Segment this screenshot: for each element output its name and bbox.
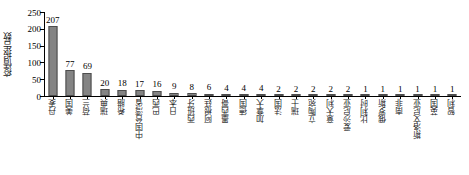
- bar-value-label: 4: [242, 84, 247, 93]
- x-axis-category-label: 爱沙尼亚: [344, 99, 352, 131]
- bar-value-label: 18: [118, 79, 127, 88]
- bar-slot: 1: [426, 12, 443, 96]
- bar[interactable]: [83, 73, 92, 96]
- x-axis-category-label: 瑞典: [101, 99, 109, 115]
- x-axis-category-label: 南非: [396, 99, 404, 115]
- bar-value-label: 2: [294, 85, 299, 94]
- bar-slot: 9: [166, 12, 183, 96]
- y-axis-tick-label: 50: [32, 75, 41, 85]
- bar-slot: 1: [444, 12, 461, 96]
- bar-slot: 17: [131, 12, 148, 96]
- bar-slot: 2: [270, 12, 287, 96]
- bar-value-label: 207: [46, 16, 60, 25]
- bar-value-label: 1: [398, 85, 403, 94]
- bar[interactable]: [66, 70, 75, 96]
- bar-slot: 77: [61, 12, 78, 96]
- y-axis-title: 疫情报告数: [0, 0, 14, 108]
- y-axis-tick-label: 250: [28, 8, 42, 18]
- x-axis-category-label: 德国: [240, 99, 248, 115]
- y-axis-tick-label: 200: [28, 24, 42, 34]
- bar-slot: 1: [392, 12, 409, 96]
- bar-value-label: 17: [135, 80, 144, 89]
- bar-value-label: 1: [363, 85, 368, 94]
- bar-slot: 2: [339, 12, 356, 96]
- x-axis-category-label: 法国: [275, 99, 283, 115]
- bar-value-label: 2: [276, 85, 281, 94]
- x-axis-line: [44, 96, 461, 97]
- x-axis-category-label: 荷兰: [83, 99, 91, 115]
- bar-value-label: 6: [207, 83, 212, 92]
- bar-slot: 1: [374, 12, 391, 96]
- x-axis-category-label: 比利时: [361, 99, 369, 123]
- bar-value-label: 1: [433, 85, 438, 94]
- x-axis-category-label: 瑞士: [292, 99, 300, 115]
- bar-value-label: 4: [259, 84, 264, 93]
- bar-slot: 2: [287, 12, 304, 96]
- bar[interactable]: [100, 89, 109, 96]
- bar-value-label: 20: [100, 79, 109, 88]
- x-axis-category-label: 希腊: [118, 99, 126, 115]
- bar-slot: 207: [44, 12, 61, 96]
- bar-slot: 18: [114, 12, 131, 96]
- x-axis-category-label: 巴西: [153, 99, 161, 115]
- bar-slot: 6: [200, 12, 217, 96]
- x-axis-category-label: 意大利: [327, 99, 335, 123]
- x-axis-category-label: 阿根廷: [205, 99, 213, 123]
- bar-value-label: 8: [189, 83, 194, 92]
- bar-slot: 1: [409, 12, 426, 96]
- x-axis-category-label: 西班牙: [188, 99, 196, 123]
- x-axis-category-label: 丹麦: [49, 99, 57, 115]
- x-axis-category-label: 智利: [448, 99, 456, 115]
- bar-value-label: 1: [381, 85, 386, 94]
- x-axis-category-label: 墨西哥: [222, 99, 230, 123]
- bar-value-label: 4: [224, 84, 229, 93]
- bar-slot: 8: [183, 12, 200, 96]
- bar-value-label: 2: [328, 85, 333, 94]
- bar-slot: 4: [235, 12, 252, 96]
- x-axis-category-label: 美国: [66, 99, 74, 115]
- bar-slot: 16: [148, 12, 165, 96]
- x-axis-category-label: 立陶宛: [309, 99, 317, 123]
- bar-value-label: 16: [152, 80, 161, 89]
- bar-chart-figure: 疫情报告数 050100150200250 207776920181716986…: [0, 0, 469, 175]
- y-axis-tick-label: 150: [28, 41, 42, 51]
- x-axis-category-labels: 丹麦美国荷兰瑞典希腊中国台湾省巴西日本西班牙阿根廷墨西哥德国加拿大法国瑞士立陶宛…: [44, 99, 461, 175]
- y-axis-tick-label: 0: [37, 92, 42, 102]
- bar-value-label: 1: [415, 85, 420, 94]
- bar[interactable]: [48, 26, 57, 96]
- bars-layer: 20777692018171698644422222111111: [44, 12, 461, 96]
- bar-slot: 69: [79, 12, 96, 96]
- x-axis-category-label: 中国台湾省: [136, 99, 144, 139]
- bar-slot: 2: [305, 12, 322, 96]
- y-axis-title-text: 疫情报告数: [3, 32, 12, 77]
- x-axis-category-label: 日本: [170, 99, 178, 115]
- plot-area: 050100150200250 207776920181716986444222…: [44, 12, 461, 96]
- bar-value-label: 2: [311, 85, 316, 94]
- bar-value-label: 69: [83, 62, 92, 71]
- x-axis-category-label: 英国: [431, 99, 439, 115]
- x-axis-category-label: 俄罗斯: [379, 99, 387, 123]
- bar-slot: 2: [322, 12, 339, 96]
- bar-slot: 4: [218, 12, 235, 96]
- x-axis-category-label: 加拿大: [257, 99, 265, 123]
- bar-value-label: 9: [172, 82, 177, 91]
- bar-slot: 1: [357, 12, 374, 96]
- bar-value-label: 77: [66, 60, 75, 69]
- bar-slot: 20: [96, 12, 113, 96]
- bar-slot: 4: [253, 12, 270, 96]
- x-axis-category-label: 斯洛文尼亚: [414, 99, 422, 139]
- bar-value-label: 2: [346, 85, 351, 94]
- y-axis-tick-label: 100: [28, 58, 42, 68]
- bar-value-label: 1: [450, 85, 455, 94]
